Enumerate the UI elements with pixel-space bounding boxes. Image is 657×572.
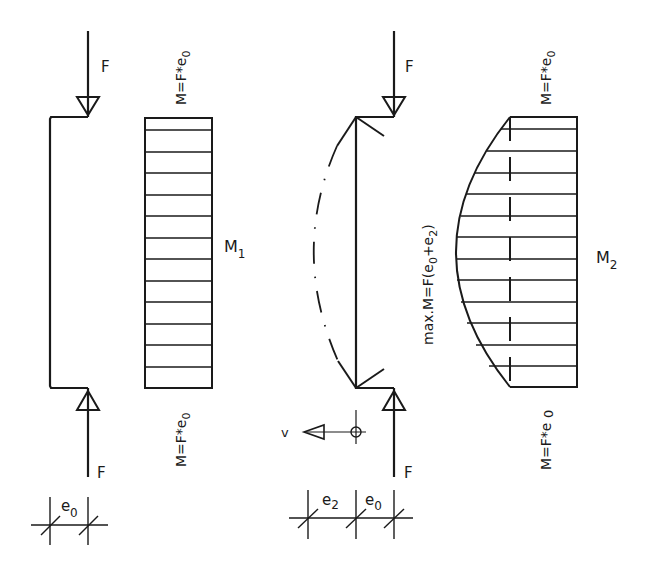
- deflected-shape-curve: [314, 146, 338, 361]
- dim-label-e: e: [61, 497, 70, 515]
- m2-bottom-moment-label: M=F*e 0: [538, 410, 556, 470]
- hinge-mark-top-left: [337, 117, 356, 146]
- m1-label: M1: [224, 237, 245, 261]
- m1-bottom-moment-label: M=F*e0: [173, 413, 193, 467]
- m2-top-moment-label: M=F*e0: [538, 51, 558, 105]
- column-member-2: [356, 117, 394, 388]
- m2-max-moment-label: max.M=F(e0+e2): [420, 224, 440, 345]
- m2-outline: [510, 117, 577, 387]
- moment-diagram-m1: M=F*e0 M=F*e0 M1: [145, 51, 245, 467]
- deflection-indicator: v: [281, 410, 366, 444]
- m1-outline: [145, 118, 212, 388]
- left-column-system: F F e e0 0: [31, 31, 110, 545]
- dimension-e2-e0: e2 e0: [289, 490, 413, 539]
- m2-parabola: [456, 117, 510, 387]
- right-column-system: F F v e2 e0: [281, 31, 414, 539]
- column-member: [50, 117, 88, 388]
- dim-subscript-0: 0: [70, 506, 78, 520]
- dim-label-e2: e2: [322, 491, 339, 512]
- hinge-mark-top-right: [356, 117, 384, 136]
- m1-top-moment-label: M=F*e0: [173, 51, 193, 105]
- deflection-label-v: v: [281, 425, 289, 440]
- force-label-bottom: F: [97, 464, 106, 482]
- dim-label-e0-right: e0: [365, 491, 382, 513]
- diagram-canvas: F F e e0 0 M=F: [0, 0, 657, 572]
- hinge-mark-bottom-right: [356, 369, 384, 388]
- hinge-mark-bottom-left: [338, 361, 356, 388]
- m2-label: M2: [596, 248, 617, 272]
- force-label-top-2: F: [405, 58, 414, 76]
- force-label-bottom-2: F: [404, 464, 413, 482]
- dimension-e0-left: e e0 0: [31, 497, 108, 545]
- moment-diagram-m2: M=F*e0 M=F*e 0 max.M=F(e0+e2) M2: [420, 51, 617, 470]
- force-label-top: F: [101, 58, 110, 76]
